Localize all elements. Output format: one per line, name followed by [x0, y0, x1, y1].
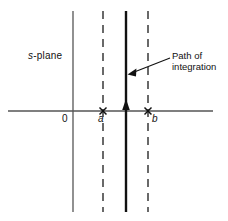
s-plane-label-suffix: -plane [33, 50, 62, 61]
pole-a-label: a [98, 113, 104, 125]
pole-b-label: b [152, 113, 158, 125]
path-of-integration-label: Path of integration [172, 50, 216, 72]
diagram-canvas [0, 0, 228, 221]
annotation-arrowhead [128, 69, 137, 77]
path-label-line-2: integration [172, 61, 216, 72]
origin-label: 0 [62, 113, 68, 125]
path-label-line-1: Path of [172, 50, 216, 61]
s-plane-label: s-plane [28, 50, 62, 62]
s-plane-diagram: s-plane 0 a b Path of integration [0, 0, 228, 221]
annotation-leader-line [133, 58, 170, 73]
path-direction-arrowhead [122, 99, 130, 110]
